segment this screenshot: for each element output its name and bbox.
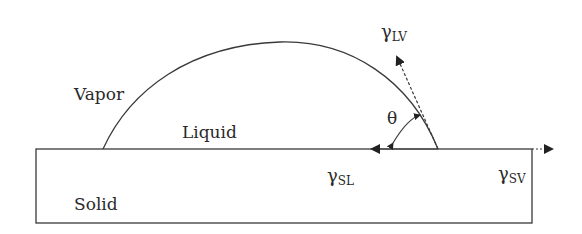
theta-label: θ [387,108,397,128]
gamma-sl-label: γSL [327,165,354,188]
gamma-lv-arrow [397,57,438,149]
solid-label: Solid [74,194,118,214]
droplet-profile [103,42,438,149]
gamma-sv-label: γSV [498,163,526,186]
contact-angle-diagram: Vapor Liquid Solid θ γLV γSL γSV [0,0,582,234]
liquid-label: Liquid [182,122,237,142]
vapor-label: Vapor [73,84,125,104]
gamma-lv-label: γLV [381,21,407,44]
